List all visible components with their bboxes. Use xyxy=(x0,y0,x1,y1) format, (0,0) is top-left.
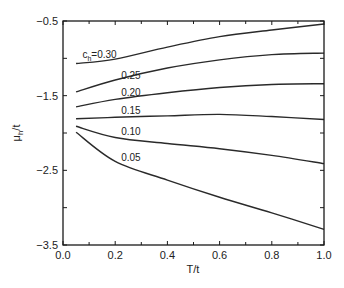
curve-labels: ch=0.300.250.200.150.100.05 xyxy=(82,49,141,163)
svg-text:μh/t: μh/t xyxy=(10,125,25,142)
curve-label: 0.25 xyxy=(121,70,141,81)
y-tick-label: −1.5 xyxy=(36,90,58,102)
x-axis-label: T/t xyxy=(187,263,200,275)
curve-label: 0.15 xyxy=(121,105,141,116)
curve-0.15 xyxy=(76,114,324,119)
x-tick-label: 0.8 xyxy=(264,249,279,261)
curve-label: 0.10 xyxy=(121,126,141,137)
curve-0.20 xyxy=(76,84,324,107)
x-tick-label: 0.6 xyxy=(212,249,227,261)
y-tick-label: −3.5 xyxy=(36,239,58,251)
curve-label: 0.05 xyxy=(121,152,141,163)
y-axis-label: μh/t xyxy=(10,125,25,142)
x-tick-label: 0.2 xyxy=(108,249,123,261)
x-tick-label: 0.4 xyxy=(160,249,175,261)
y-tick-label: −2.5 xyxy=(36,164,58,176)
curve-0.10 xyxy=(76,126,324,163)
chart: ch=0.300.250.200.150.100.05 0.00.20.40.6… xyxy=(0,0,344,288)
curve-label: 0.20 xyxy=(121,87,141,98)
y-tick-label: −0.5 xyxy=(36,15,58,27)
curve-label: ch=0.30 xyxy=(82,49,117,62)
x-tick-label: 1.0 xyxy=(316,249,331,261)
